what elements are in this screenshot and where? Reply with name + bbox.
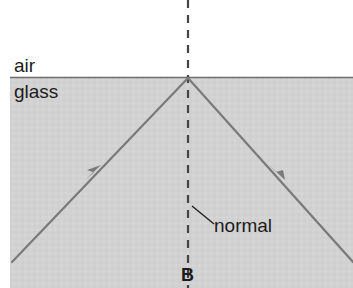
diagram-canvas <box>0 0 353 288</box>
reflection-diagram: air glass normal B <box>0 0 353 288</box>
point-b-label: B <box>181 266 194 284</box>
glass-label: glass <box>14 82 58 101</box>
air-label: air <box>14 56 35 75</box>
normal-label: normal <box>214 216 272 235</box>
glass-medium-region <box>10 77 353 288</box>
